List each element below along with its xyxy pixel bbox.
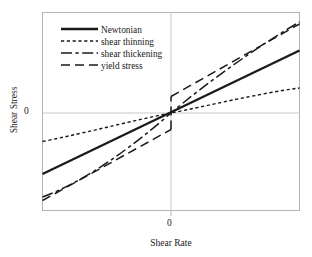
x-axis-tick-label-zero: 0	[167, 218, 172, 228]
x-axis-label: Shear Rate	[126, 238, 216, 248]
legend-label-shear-thickening: shear thickening	[101, 49, 163, 59]
legend-label-shear-thinning: shear thinning	[101, 37, 154, 47]
chart-figure: Newtonian shear thinning shear thickenin…	[0, 0, 312, 257]
y-axis-label: Shear Stress	[9, 70, 19, 150]
legend-label-newtonian: Newtonian	[101, 25, 142, 35]
y-axis-tick-label-zero: 0	[24, 106, 29, 116]
chart-svg: Newtonian shear thinning shear thickenin…	[0, 0, 312, 257]
legend-label-yield-stress: yield stress	[101, 61, 143, 71]
